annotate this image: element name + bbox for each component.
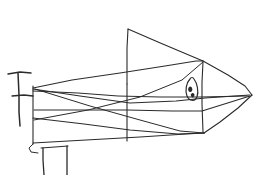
eye-pupil-upper xyxy=(188,87,192,93)
eye-pupil-lower xyxy=(191,93,195,97)
pencil-sketch xyxy=(0,0,273,175)
paper-background xyxy=(0,0,273,175)
sketch-canvas xyxy=(0,0,273,175)
